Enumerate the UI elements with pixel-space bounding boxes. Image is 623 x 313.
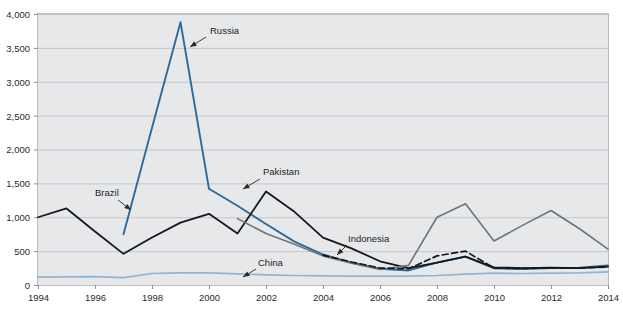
y-tick-label: 0 [25, 280, 30, 291]
y-tick-label: 500 [14, 246, 30, 257]
line-chart: 05001,0001,5002,0002,5003,0003,5004,000 … [0, 0, 623, 313]
x-tick-label: 2010 [484, 292, 505, 303]
y-tick-label: 3,000 [6, 77, 30, 88]
x-tick-label: 2012 [541, 292, 562, 303]
y-tick-label: 2,500 [6, 111, 30, 122]
y-tick-label: 1,500 [6, 178, 30, 189]
plot-area [38, 14, 609, 286]
annotation-label: Russia [210, 25, 240, 36]
y-tick-label: 2,000 [6, 144, 30, 155]
y-tick-label: 3,500 [6, 43, 30, 54]
x-tick-label: 1998 [142, 292, 163, 303]
y-tick-label: 4,000 [6, 9, 30, 20]
x-tick-label: 2006 [370, 292, 391, 303]
x-tick-label: 1996 [85, 292, 106, 303]
annotation-label: Indonesia [348, 233, 390, 244]
annotation-label: China [258, 257, 284, 268]
x-tick-label: 2002 [256, 292, 277, 303]
x-axis: 1994199619982000200220042006200820102012… [28, 285, 619, 303]
x-tick-label: 2014 [598, 292, 619, 303]
annotation-label: Brazil [95, 187, 119, 198]
x-tick-label: 1994 [28, 292, 49, 303]
annotation-label: Pakistan [263, 166, 299, 177]
x-tick-label: 2004 [313, 292, 334, 303]
x-tick-label: 2008 [427, 292, 448, 303]
y-axis: 05001,0001,5002,0002,5003,0003,5004,000 [6, 9, 38, 291]
x-tick-label: 2000 [199, 292, 220, 303]
y-tick-label: 1,000 [6, 212, 30, 223]
